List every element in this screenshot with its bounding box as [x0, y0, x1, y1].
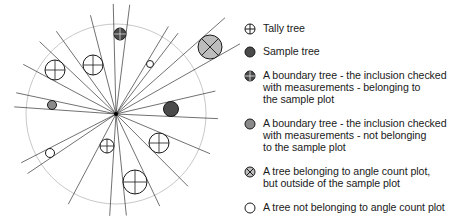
boundary-tree-out-icon: [244, 118, 256, 130]
legend-label: A tree not belonging to angle count plot: [263, 201, 445, 213]
legend-label: A boundary tree - the inclusion checked …: [263, 69, 447, 105]
sight-ray: [21, 114, 116, 163]
plot-center-point: [114, 112, 118, 116]
angle-count-outside-icon: [244, 166, 256, 178]
sample-tree-icon: [244, 46, 256, 58]
legend-label: Tally tree: [263, 22, 305, 34]
not-belonging-icon: [244, 202, 256, 214]
sight-ray: [68, 114, 116, 204]
legend-label: A tree belonging to angle count plot, bu…: [263, 165, 430, 189]
sight-ray: [116, 114, 126, 215]
legend-item-tally-tree: Tally tree: [244, 22, 305, 35]
legend-item-boundary-tree-in: A boundary tree - the inclusion checked …: [244, 69, 447, 105]
legend-label: Sample tree: [263, 45, 320, 57]
sight-ray: [110, 114, 116, 216]
legend-item-angle-count-outside: A tree belonging to angle count plot, bu…: [244, 165, 430, 189]
sample-tree: [164, 102, 179, 117]
sight-ray: [116, 26, 168, 114]
not-belonging-tree: [46, 149, 55, 158]
sight-ray: [116, 42, 240, 114]
not-belonging-tree: [147, 61, 154, 68]
sight-ray: [23, 64, 116, 114]
sight-ray: [116, 18, 225, 114]
legend-item-not-belonging: A tree not belonging to angle count plot: [244, 201, 445, 214]
legend-item-boundary-tree-out: A boundary tree - the inclusion checked …: [244, 117, 447, 153]
boundary-tree-in-icon: [244, 70, 256, 82]
angle-count-plot-diagram: [0, 0, 240, 222]
legend-item-sample-tree: Sample tree: [244, 45, 320, 58]
boundary-tree-out: [48, 101, 57, 110]
legend-label: A boundary tree - the inclusion checked …: [263, 117, 447, 153]
sight-ray: [116, 5, 130, 114]
tally-tree-icon: [244, 23, 256, 35]
sight-ray: [113, 4, 116, 114]
